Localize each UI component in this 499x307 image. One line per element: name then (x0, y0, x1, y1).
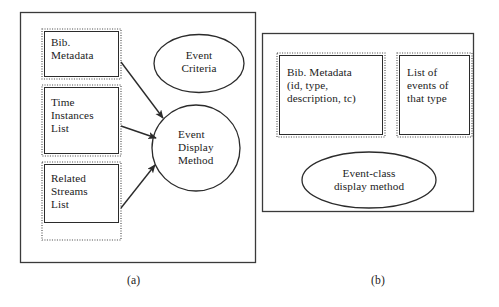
box-bib-metadata-outline (42, 29, 121, 79)
arrow-time-instances-to-event-display-method (121, 126, 156, 138)
ellipse-event-display-method (152, 105, 240, 191)
box-related-streams-list-outline (42, 162, 121, 240)
box-time-instances-list-outline (42, 85, 121, 156)
ellipse-event-criteria (154, 35, 244, 93)
caption-panel-a: (a) (127, 274, 140, 287)
arrow-related-streams-to-event-display-method (121, 165, 155, 208)
caption-panel-b: (b) (371, 274, 385, 287)
box-bib-metadata-detail-outline (277, 53, 385, 137)
figure-container: Bib. Metadata Time Instances List Relate… (0, 0, 499, 307)
box-list-of-events-outline (397, 53, 472, 137)
ellipse-event-class-display-method (302, 152, 436, 208)
arrow-bib-metadata-to-event-display-method (121, 62, 163, 118)
diagram-canvas (0, 0, 499, 307)
